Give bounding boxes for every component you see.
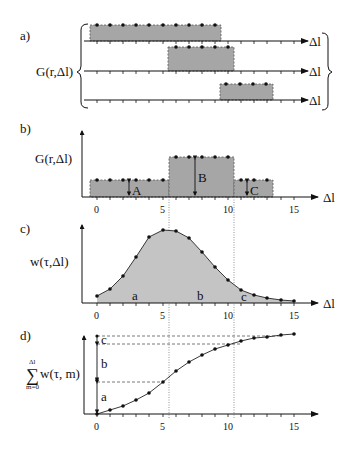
panel-c-tick-5: 5 (160, 310, 165, 321)
panel-b-tick-5: 5 (160, 204, 165, 215)
area-fill (97, 230, 294, 303)
row2-axis-label: Δl (309, 64, 321, 79)
panel-c-label: c) (20, 221, 30, 236)
segment-b-label: b (101, 356, 108, 371)
panel-d-tick-15: 15 (289, 421, 299, 432)
panel-b-tick-10: 10 (223, 204, 233, 215)
panel-c-y-label: w(τ,Δl) (30, 254, 69, 269)
row1-block (90, 25, 221, 41)
panel-b-tick-15: 15 (289, 204, 299, 215)
panel-c-tick-15: 15 (289, 310, 299, 321)
label-c: C (250, 183, 259, 198)
segment-c-label: c (101, 332, 107, 347)
cumulative-curve (97, 334, 294, 414)
row2-block (168, 47, 234, 71)
sum-symbol: ∑ (26, 365, 39, 385)
panel-d-tick-0: 0 (94, 421, 99, 432)
left-brace-icon (77, 24, 88, 108)
panel-b: b) G(r,Δl) A B C 0 5 10 15 Δl (20, 121, 335, 215)
panel-a-y-label: G(r,Δl) (36, 64, 73, 79)
panel-b-y-label: G(r,Δl) (35, 151, 72, 166)
region-a-label: a (132, 288, 138, 303)
label-b: B (198, 170, 207, 185)
panel-c-tick-10: 10 (223, 310, 233, 321)
sum-lower-limit: m=0 (26, 383, 39, 391)
panel-c-tick-0: 0 (94, 310, 99, 321)
panel-a: a) G(r,Δl) Δl Δl Δl (20, 23, 332, 110)
panel-a-label: a) (20, 28, 30, 43)
panel-b-axis-label: Δl (323, 190, 335, 205)
sum-expression: w(τ, m) (40, 366, 80, 381)
label-a: A (132, 183, 142, 198)
panel-d-tick-10: 10 (223, 421, 233, 432)
figure: a) G(r,Δl) Δl Δl Δl (0, 0, 355, 453)
panel-d-tick-5: 5 (160, 421, 165, 432)
row1-axis-label: Δl (309, 34, 321, 49)
panel-c: c) w(τ,Δl) a b c 0 5 10 15 Δl (20, 221, 335, 321)
panel-c-axis-label: Δl (323, 296, 335, 311)
region-b-label: b (197, 288, 204, 303)
segment-c-top (95, 334, 98, 337)
panel-d-dots (95, 332, 296, 416)
segment-a-label: a (101, 389, 107, 404)
panel-b-label: b) (20, 121, 31, 136)
right-brace-icon (322, 33, 332, 110)
row3-block (220, 84, 273, 100)
block-a (90, 180, 169, 197)
panel-d-label: d) (20, 328, 31, 343)
region-c-label: c (241, 289, 247, 304)
panel-b-tick-0: 0 (94, 204, 99, 215)
row3-axis-label: Δl (309, 93, 321, 108)
